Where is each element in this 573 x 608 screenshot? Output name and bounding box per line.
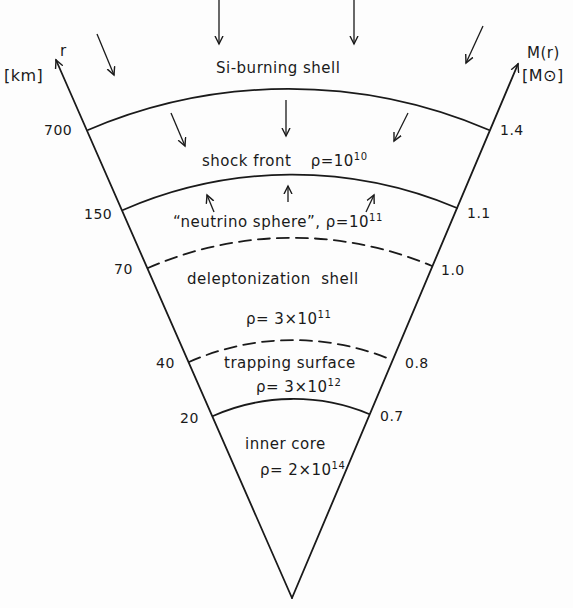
mass-axis — [292, 64, 518, 598]
region-shock-front: shock front ρ=1010 — [202, 152, 368, 170]
boundary-150km — [123, 175, 457, 210]
boundary-70km — [148, 238, 432, 268]
r-tick-700: 700 — [44, 122, 72, 138]
r-tick-20: 20 — [180, 410, 199, 426]
region-si-burning-shell: Si-burning shell — [216, 59, 340, 77]
region-inner-core: inner core — [245, 435, 326, 453]
outward-arrow — [366, 195, 374, 212]
density-value: ρ=1010 — [311, 152, 368, 170]
r-tick-40: 40 — [156, 355, 175, 371]
m-tick-1.1: 1.1 — [467, 205, 491, 221]
m-tick-1.4: 1.4 — [500, 122, 524, 138]
density-exponent: 11 — [318, 309, 332, 320]
m-tick-0.7: 0.7 — [380, 408, 404, 424]
r-axis-unit: [km] — [4, 66, 43, 85]
region-neutrino-sphere: “neutrino sphere”, ρ=1011 — [173, 213, 383, 231]
density-exponent: 11 — [369, 212, 383, 223]
m-tick-0.8: 0.8 — [405, 355, 429, 371]
outward-arrow — [207, 195, 214, 212]
boundary-700km — [88, 89, 489, 130]
region-label: shock front — [202, 152, 291, 170]
infall-arrow — [394, 113, 408, 141]
infall-arrow — [466, 26, 483, 63]
collapsing-core-diagram: r [km] 700 150 70 40 20 M(r) [M⊙] 1.4 1.… — [0, 0, 573, 608]
deleptonization-density: ρ= 3×1011 — [246, 310, 331, 328]
density-base: ρ=10 — [326, 213, 369, 231]
density-exponent: 14 — [332, 460, 346, 471]
trapping-density: ρ= 3×1012 — [256, 378, 341, 396]
density-base: ρ= 3×10 — [246, 310, 318, 328]
density-base: ρ= 3×10 — [256, 378, 328, 396]
inner-core-density: ρ= 2×1014 — [260, 461, 345, 479]
mass-axis-unit: [M⊙] — [522, 66, 564, 85]
r-tick-70: 70 — [114, 261, 133, 277]
m-tick-1.0: 1.0 — [441, 262, 465, 278]
region-trapping-surface: trapping surface — [224, 354, 356, 372]
cone-diagram-graphic — [0, 0, 573, 608]
mass-axis-symbol: M(r) — [527, 44, 560, 62]
region-label: “neutrino sphere”, — [173, 213, 321, 231]
infall-arrow — [171, 113, 185, 146]
density-base: ρ=10 — [311, 152, 354, 170]
infall-arrow — [97, 34, 114, 75]
r-tick-150: 150 — [84, 206, 112, 222]
density-exponent: 12 — [328, 377, 342, 388]
density-base: ρ= 2×10 — [260, 461, 332, 479]
r-axis-symbol: r — [60, 42, 67, 60]
density-value: ρ=1011 — [326, 213, 383, 231]
region-deleptonization-shell: deleptonization shell — [187, 270, 359, 288]
r-axis — [56, 60, 292, 598]
boundary-20km — [213, 399, 369, 416]
density-exponent: 10 — [354, 151, 368, 162]
